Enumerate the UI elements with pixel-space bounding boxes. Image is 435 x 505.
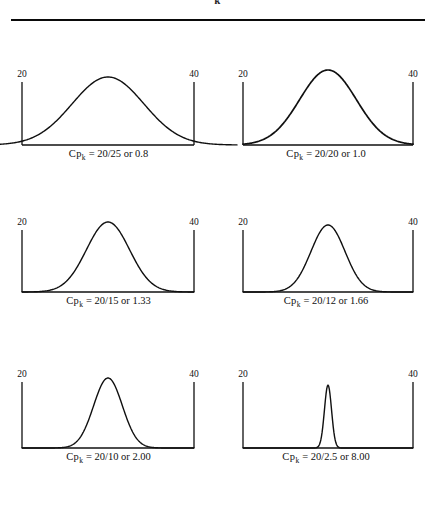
cpk-value-1: 0.8 xyxy=(135,148,148,159)
cpk-equals-3: = xyxy=(86,295,92,306)
axis-tick-label-lower: 20 xyxy=(238,217,248,227)
panel-middle-left: 2040 Cpk = 20/15 or 1.33 xyxy=(0,180,217,330)
axis-tick-label-upper: 40 xyxy=(189,217,199,227)
horizontal-divider-rule xyxy=(11,19,425,21)
cpk-symbol-4: Cp xyxy=(284,295,297,306)
cpk-symbol-2: Cp xyxy=(286,148,299,159)
axis-tick-label-upper: 40 xyxy=(408,217,418,227)
panel-caption-1: Cpk = 20/25 or 0.8 xyxy=(0,148,217,159)
distribution-curve xyxy=(243,225,413,292)
distribution-curve xyxy=(22,222,194,292)
axis-tick-label-lower: 20 xyxy=(238,369,248,379)
cpk-or-5: or xyxy=(121,451,130,462)
cpk-chart-3: 2040 xyxy=(0,180,217,330)
panel-caption-3: Cpk = 20/15 or 1.33 xyxy=(0,295,217,306)
cpk-subscript-4: k xyxy=(297,300,301,309)
panel-caption-5: Cpk = 20/10 or 2.00 xyxy=(0,451,217,462)
axis-tick-label-lower: 20 xyxy=(17,217,27,227)
cpk-or-2: or xyxy=(341,148,350,159)
cpk-ratio-3: 20/15 xyxy=(95,295,119,306)
cpk-ratio-2: 20/20 xyxy=(315,148,339,159)
cpk-equals-4: = xyxy=(304,295,310,306)
cpk-or-4: or xyxy=(339,295,348,306)
distribution-curve xyxy=(0,77,237,145)
cpk-value-2: 1.0 xyxy=(353,148,366,159)
panel-bottom-right: 2040 Cpk = 20/2.5 or 8.00 xyxy=(217,330,435,485)
cpk-subscript-1: k xyxy=(82,153,86,162)
distribution-curve xyxy=(243,70,413,144)
cpk-equals-1: = xyxy=(89,148,95,159)
cpk-value-4: 1.66 xyxy=(350,295,368,306)
cpk-subscript-5: k xyxy=(79,456,83,465)
axis-tick-label-lower: 20 xyxy=(238,69,248,79)
cpk-equals-6: = xyxy=(302,451,308,462)
cpk-value-3: 1.33 xyxy=(132,295,150,306)
axis-tick-label-lower: 20 xyxy=(17,69,27,79)
panel-middle-right: 2040 Cpk = 20/12 or 1.66 xyxy=(217,180,435,330)
cpk-ratio-6: 20/2.5 xyxy=(311,451,338,462)
panel-top-right: 2040 Cpk = 20/20 or 1.0 xyxy=(217,30,435,180)
axis-tick-label-upper: 40 xyxy=(189,369,199,379)
cpk-or-6: or xyxy=(340,451,349,462)
axis-tick-label-upper: 40 xyxy=(189,69,199,79)
panel-caption-2: Cpk = 20/20 or 1.0 xyxy=(217,148,435,159)
cpk-ratio-5: 20/10 xyxy=(95,451,119,462)
axis-tick-label-upper: 40 xyxy=(408,369,418,379)
axis-tick-label-lower: 20 xyxy=(17,369,27,379)
cpk-ratio-4: 20/12 xyxy=(312,295,336,306)
cpk-ratio-1: 20/25 xyxy=(97,148,121,159)
cpk-symbol-6: Cp xyxy=(282,451,295,462)
cpk-equals-5: = xyxy=(86,451,92,462)
cpk-subscript-3: k xyxy=(79,300,83,309)
cpk-or-3: or xyxy=(121,295,130,306)
cpk-chart-4: 2040 xyxy=(217,180,435,330)
cpk-symbol-1: Cp xyxy=(69,148,82,159)
cpk-panel-grid: 2040 Cpk = 20/25 or 0.8 2040 Cpk = 20/20… xyxy=(0,30,435,505)
cpk-subscript-2: k xyxy=(299,153,303,162)
panel-top-left: 2040 Cpk = 20/25 or 0.8 xyxy=(0,30,217,180)
cpk-equals-2: = xyxy=(306,148,312,159)
panel-caption-6: Cpk = 20/2.5 or 8.00 xyxy=(217,451,435,462)
distribution-curve xyxy=(22,378,194,448)
panel-caption-4: Cpk = 20/12 or 1.66 xyxy=(217,295,435,306)
cpk-value-6: 8.00 xyxy=(351,451,369,462)
distribution-curve xyxy=(243,385,413,448)
cpk-or-1: or xyxy=(124,148,133,159)
cpk-symbol-5: Cp xyxy=(66,451,79,462)
cpk-value-5: 2.00 xyxy=(132,451,150,462)
cpk-subscript-6: k xyxy=(295,456,299,465)
axis-tick-label-upper: 40 xyxy=(408,69,418,79)
cpk-symbol-3: Cp xyxy=(66,295,79,306)
cropped-top-glyph: k xyxy=(0,0,435,7)
panel-bottom-left: 2040 Cpk = 20/10 or 2.00 xyxy=(0,330,217,485)
